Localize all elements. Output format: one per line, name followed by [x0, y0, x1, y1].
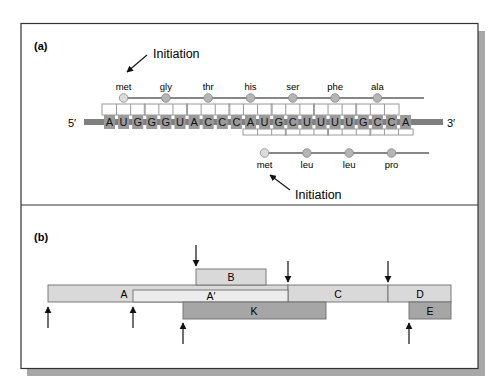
nucleotide: A [104, 115, 115, 129]
nucleotide: C [386, 115, 397, 129]
initiation-label-bottom: Initiation [295, 188, 342, 202]
panel-b-label: (b) [34, 231, 48, 243]
amino-acid-circle [331, 94, 340, 103]
nucleotide-letter: C [373, 116, 381, 128]
nucleotide-letter: G [133, 116, 142, 128]
amino-acid-label: leu [301, 159, 314, 170]
amino-acid-circle [373, 94, 382, 103]
nucleotide-letter: C [218, 116, 226, 128]
nucleotide-letter: U [120, 116, 128, 128]
amino-acid-circle [260, 149, 269, 158]
nucleotide-letter: C [289, 116, 297, 128]
amino-acid-circle [246, 94, 255, 103]
nucleotide-letter: U [331, 116, 339, 128]
gene-d: D [388, 285, 451, 302]
amino-acid-circle [289, 94, 298, 103]
nucleotide: G [132, 115, 143, 129]
nucleotide: C [231, 115, 242, 129]
gene-a-prime: A′ [133, 290, 288, 302]
amino-acid-label: ala [371, 81, 384, 92]
amino-acid-label: ser [286, 81, 299, 92]
gene-label: K [250, 305, 257, 317]
nucleotide: A [189, 115, 200, 129]
nucleotide-letter: G [148, 116, 157, 128]
amino-acid-circle [204, 94, 213, 103]
gene-label: B [227, 271, 234, 283]
nucleotide-letter: C [232, 116, 240, 128]
amino-acid-label: met [257, 159, 273, 170]
gene-label: E [426, 305, 433, 317]
amino-acid-circle [303, 149, 312, 158]
gene-c: C [288, 285, 388, 302]
nucleotide: A [400, 115, 411, 129]
nucleotide-letter: U [261, 116, 269, 128]
panel-a-label: (a) [34, 40, 48, 52]
figure: (a) Initiation 5′ 3′ AUGGGUACCCAUGCUUUUG… [0, 0, 503, 392]
nucleotide-letter: A [190, 116, 198, 128]
three-prime-label: 3′ [447, 117, 455, 129]
amino-acid-circle [387, 149, 396, 158]
nucleotide: G [273, 115, 284, 129]
nucleotide: G [160, 115, 171, 129]
nucleotide: U [330, 115, 341, 129]
nucleotide: G [358, 115, 369, 129]
nucleotide: U [175, 115, 186, 129]
amino-acid-label: gly [160, 81, 172, 92]
nucleotide-letter: U [317, 116, 325, 128]
nucleotide-letter: G [359, 116, 368, 128]
amino-acid-label: thr [203, 81, 214, 92]
nucleotide: U [259, 115, 270, 129]
nucleotide-letter: G [162, 116, 171, 128]
nucleotide: C [287, 115, 298, 129]
gene-label: A′ [207, 290, 216, 302]
nucleotide-letter: A [106, 116, 114, 128]
nucleotide: C [203, 115, 214, 129]
nucleotide: U [316, 115, 327, 129]
gene-k: K [183, 302, 326, 319]
gene-label: D [416, 288, 424, 300]
nucleotide-letter: U [303, 116, 311, 128]
amino-acid-label: pro [385, 159, 399, 170]
nucleotide: U [344, 115, 355, 129]
nucleotide: C [217, 115, 228, 129]
nucleotide-letter: C [204, 116, 212, 128]
gene-label: A [120, 288, 127, 300]
nucleotide-letter: U [176, 116, 184, 128]
gene-e: E [409, 302, 451, 319]
nucleotide-letter: A [402, 116, 410, 128]
nucleotide: G [146, 115, 157, 129]
nucleotide-letter: C [388, 116, 396, 128]
amino-acid-label: phe [327, 81, 343, 92]
nucleotide: A [245, 115, 256, 129]
amino-acid-circle [119, 94, 128, 103]
nucleotide: U [301, 115, 312, 129]
amino-acid-circle [162, 94, 171, 103]
amino-acid-label: leu [343, 159, 356, 170]
nucleotide-letter: G [274, 116, 283, 128]
nucleotide: U [118, 115, 129, 129]
five-prime-label: 5′ [68, 117, 76, 129]
nucleotide-letter: A [247, 116, 255, 128]
amino-acid-circle [345, 149, 354, 158]
amino-acid-label: his [244, 81, 256, 92]
nucleotide-letter: U [345, 116, 353, 128]
initiation-label-top: Initiation [153, 47, 200, 61]
nucleotide: C [372, 115, 383, 129]
amino-acid-label: met [116, 81, 132, 92]
gene-label: C [334, 288, 342, 300]
gene-b: B [196, 269, 266, 285]
